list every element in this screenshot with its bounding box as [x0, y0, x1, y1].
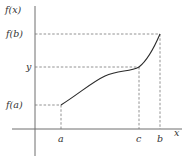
- function-curve: [61, 34, 160, 105]
- tick-label-fa: f(a): [5, 99, 23, 110]
- tick-label-a: a: [58, 133, 64, 144]
- tick-label-y: y: [25, 61, 32, 72]
- ivt-diagram: f(x) f(b) y f(a) a c b x: [0, 0, 190, 157]
- tick-label-fb: f(b): [5, 28, 23, 39]
- y-axis-label: f(x): [4, 4, 22, 15]
- tick-label-b: b: [157, 133, 163, 144]
- tick-label-c: c: [136, 133, 142, 144]
- x-axis-label: x: [174, 127, 180, 138]
